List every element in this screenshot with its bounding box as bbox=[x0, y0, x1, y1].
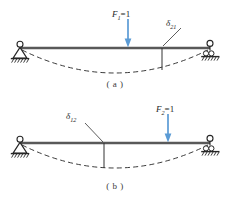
displacement-label-b: δ12 bbox=[66, 111, 76, 123]
load-value-a: =1 bbox=[121, 9, 131, 19]
delta-leader-a bbox=[163, 28, 181, 46]
displacement-label-a: δ21 bbox=[166, 18, 176, 30]
caption-a: ( a ) bbox=[0, 79, 230, 89]
load-label-a: F1=1 bbox=[112, 9, 130, 21]
delta-subscript-a: 21 bbox=[170, 23, 176, 30]
deflection-curve-a bbox=[22, 50, 208, 73]
deflection-curve-b bbox=[22, 145, 208, 168]
support-roller-right-a bbox=[201, 40, 219, 60]
load-value-b: =1 bbox=[165, 104, 175, 114]
beam-deflection-figure: F1=1 δ21 ( a ) bbox=[0, 0, 230, 203]
load-label-b: F2=1 bbox=[156, 104, 174, 116]
support-pin-left-b bbox=[11, 136, 29, 157]
load-arrow-b bbox=[165, 114, 172, 143]
support-roller-right-b bbox=[201, 135, 219, 155]
delta-subscript-b: 12 bbox=[70, 116, 76, 123]
delta-leader-b bbox=[85, 123, 103, 142]
load-arrow-a bbox=[125, 19, 132, 48]
caption-b: ( b ) bbox=[0, 181, 230, 191]
